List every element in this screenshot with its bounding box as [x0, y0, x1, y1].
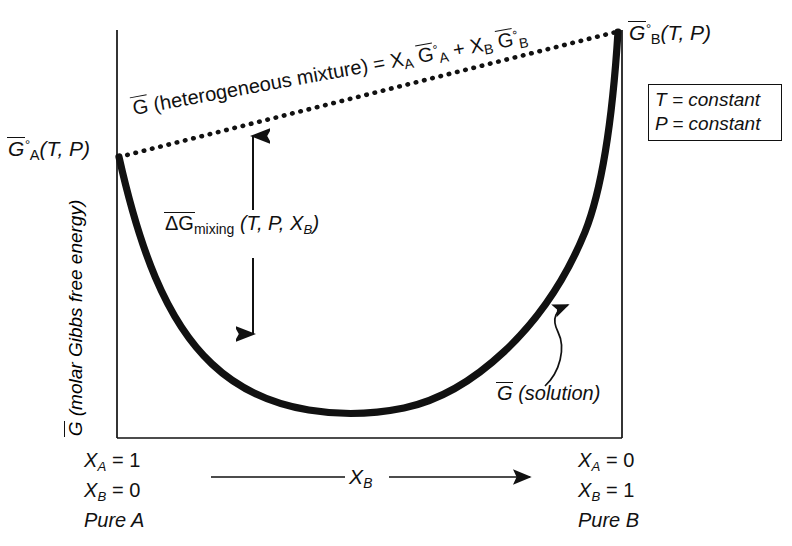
subscript-a-left: A — [30, 147, 40, 163]
right-xa-line: XA = 0 — [578, 450, 639, 480]
x-axis-arrow-label: XB — [349, 466, 373, 490]
left-xb-sub: B — [98, 489, 107, 504]
mixing-args-close: ) — [312, 212, 319, 234]
y-axis-caption: (molar Gibbs free energy) — [65, 200, 86, 416]
left-xa-sub: A — [98, 459, 107, 474]
delta-symbol: Δ — [165, 212, 178, 234]
endpoint-args-right: (T, P) — [660, 21, 711, 44]
figure-canvas: G°A(T, P) G°B(T, P) G (heterogeneous mix… — [0, 0, 792, 546]
y-axis-label: G (molar Gibbs free energy) — [65, 193, 87, 443]
constant-pressure: P = constant — [655, 112, 776, 136]
mixing-subscript: mixing — [194, 221, 234, 237]
right-xa-symbol: X — [578, 449, 591, 471]
hetero-sub-a: A — [403, 55, 415, 72]
xb-symbol: X — [349, 465, 363, 488]
left-xb-value: = 0 — [112, 479, 140, 501]
hetero-sub-b: B — [483, 40, 495, 57]
right-xb-sub: B — [592, 489, 601, 504]
left-pure-label: Pure A — [84, 510, 144, 540]
g-symbol-mixing: G — [178, 212, 194, 234]
left-xa-line: XA = 1 — [84, 450, 144, 480]
solution-text: (solution) — [518, 382, 600, 404]
xb-subscript: B — [363, 475, 372, 491]
solution-leader-arrow — [545, 305, 568, 386]
constants-box: T = constant P = constant — [648, 84, 782, 141]
right-xb-value: = 1 — [606, 479, 634, 501]
left-xb-line: XB = 0 — [84, 480, 144, 510]
delta-g-mixing-label: ΔGmixing (T, P, XB) — [165, 213, 319, 237]
left-xa-value: = 1 — [112, 449, 140, 471]
endpoint-label-left: G°A(T, P) — [8, 138, 90, 163]
corner-label-right: XA = 0 XB = 1 Pure B — [578, 450, 639, 540]
left-xb-symbol: X — [84, 479, 97, 501]
subscript-b-right: B — [651, 31, 661, 47]
hetero-plus: + X — [451, 34, 485, 61]
g-bar-symbol-left: G — [8, 138, 24, 160]
solution-curve-label: G (solution) — [497, 383, 600, 404]
g-a-sub: A — [438, 48, 450, 65]
right-xb-line: XB = 1 — [578, 480, 639, 510]
delta-g-bar: ΔG — [165, 213, 194, 234]
endpoint-label-right: G°B(T, P) — [629, 22, 711, 47]
constant-temperature: T = constant — [655, 88, 776, 112]
g-bar-hetero: G — [131, 95, 150, 118]
left-xa-symbol: X — [84, 449, 97, 471]
right-pure-label: Pure B — [578, 510, 639, 540]
mixing-args-open: (T, P, X — [240, 212, 303, 234]
right-xa-value: = 0 — [606, 449, 634, 471]
y-axis-g-symbol: G — [65, 421, 87, 436]
corner-label-left: XA = 1 XB = 0 Pure A — [84, 450, 144, 540]
right-xa-sub: A — [592, 459, 601, 474]
endpoint-args-left: (T, P) — [39, 137, 90, 160]
g-bar-symbol-right: G — [629, 22, 645, 44]
g-bar-solution: G — [497, 383, 513, 404]
right-xb-symbol: X — [578, 479, 591, 501]
